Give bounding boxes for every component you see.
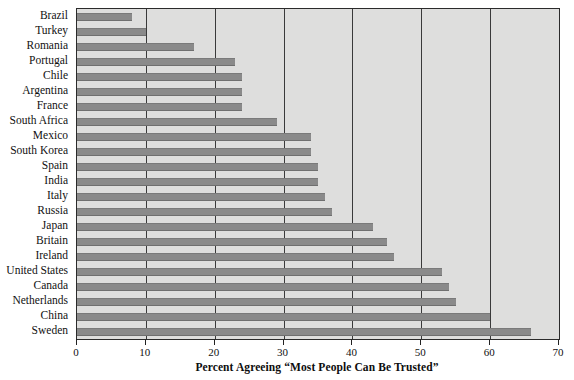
bar [77,208,332,216]
x-tick-label: 20 [208,346,219,358]
x-tick [214,339,215,345]
bar-row [77,204,559,219]
bar-row [77,84,559,99]
x-tick-label: 40 [346,346,357,358]
bar-row [77,99,559,114]
y-tick-label: Japan [0,218,72,233]
x-axis-title: Percent Agreeing “Most People Can Be Tru… [76,361,558,373]
bar [77,268,442,276]
bar [77,43,194,51]
x-tick-label: 60 [484,346,495,358]
bar-row [77,189,559,204]
bar [77,103,242,111]
y-tick-label: Argentina [0,83,72,98]
y-tick-label: India [0,173,72,188]
y-tick-label: Brazil [0,8,72,23]
bar-row [77,234,559,249]
bar [77,118,277,126]
bar [77,178,318,186]
bar [77,73,242,81]
x-tick-label: 50 [415,346,426,358]
bar [77,223,373,231]
bar [77,253,394,261]
x-tick-label: 30 [277,346,288,358]
bar-row [77,264,559,279]
y-tick-label: Canada [0,278,72,293]
bar [77,88,242,96]
bar-row [77,144,559,159]
bar-row [77,24,559,39]
y-tick-label: Spain [0,158,72,173]
x-tick [351,339,352,345]
bar-row [77,249,559,264]
plot-area [76,8,560,340]
x-tick-label: 0 [73,346,79,358]
bar-row [77,114,559,129]
bar [77,328,531,336]
x-tick [283,339,284,345]
bar [77,193,325,201]
y-tick-label: Chile [0,68,72,83]
x-axis: 010203040506070 [76,339,558,379]
bar-row [77,324,559,339]
bar [77,28,146,36]
y-tick-label: China [0,308,72,323]
bar [77,163,318,171]
bar-row [77,69,559,84]
bar-row [77,159,559,174]
bar-row [77,174,559,189]
bar [77,238,387,246]
bar-row [77,294,559,309]
bar [77,298,456,306]
bar-row [77,129,559,144]
y-tick-label: Romania [0,38,72,53]
bar [77,283,449,291]
y-tick-label: Italy [0,188,72,203]
plot-inner [77,9,559,339]
y-tick-label: Portugal [0,53,72,68]
bar-chart: BrazilTurkeyRomaniaPortugalChileArgentin… [0,0,574,380]
bar-row [77,279,559,294]
y-tick-label: South Africa [0,113,72,128]
x-tick [558,339,559,345]
x-tick [420,339,421,345]
bar-row [77,219,559,234]
y-axis-category-labels: BrazilTurkeyRomaniaPortugalChileArgentin… [0,8,72,338]
bar-row [77,9,559,24]
y-tick-label: Britain [0,233,72,248]
y-tick-label: United States [0,263,72,278]
x-tick [76,339,77,345]
y-tick-label: Mexico [0,128,72,143]
y-tick-label: Ireland [0,248,72,263]
x-tick-label: 70 [553,346,564,358]
x-tick [489,339,490,345]
bar [77,58,235,66]
bar-row [77,309,559,324]
x-tick [145,339,146,345]
bar-series [77,9,559,339]
bar-row [77,39,559,54]
y-tick-label: Turkey [0,23,72,38]
bar-row [77,54,559,69]
y-tick-label: France [0,98,72,113]
y-tick-label: Netherlands [0,293,72,308]
bar [77,13,132,21]
bar [77,148,311,156]
bar [77,313,490,321]
x-tick-label: 10 [139,346,150,358]
y-tick-label: Russia [0,203,72,218]
bar [77,133,311,141]
y-tick-label: South Korea [0,143,72,158]
y-tick-label: Sweden [0,323,72,338]
